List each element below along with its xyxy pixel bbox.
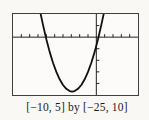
function-curve-parabola: [41, 14, 104, 92]
graph-plot-area: [13, 14, 138, 95]
graph-window-frame: [12, 13, 139, 96]
graphing-window-figure: [−10, 5] by [−25, 10]: [0, 0, 149, 120]
viewing-window-caption: [−10, 5] by [−25, 10]: [0, 99, 149, 115]
